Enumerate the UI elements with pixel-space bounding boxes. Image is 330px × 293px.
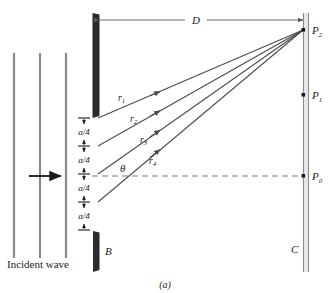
slit-division-label-1: a/4 (78, 127, 90, 137)
viewing-screen-c (304, 13, 309, 272)
figure-caption: (a) (159, 279, 171, 291)
point-marker-p0 (302, 174, 306, 178)
point-marker-p2 (302, 28, 306, 32)
point-marker-p1 (302, 93, 306, 97)
screen-body (304, 13, 309, 272)
barrier-lower-segment (93, 231, 100, 272)
screen-label-c: C (291, 243, 299, 255)
incident-wave-label: Incident wave (7, 258, 69, 270)
barrier-label-b: B (105, 245, 112, 257)
slit-division-label-2: a/4 (78, 155, 90, 165)
distance-label-d: D (191, 14, 200, 26)
barrier-upper-segment (93, 13, 100, 118)
slit-division-label-4: a/4 (78, 211, 90, 221)
diffraction-figure: a/4 a/4 a/4 a/4 D (0, 0, 330, 293)
slit-division-label-3: a/4 (78, 183, 90, 193)
figure-background (0, 0, 330, 293)
angle-label-theta: θ (120, 162, 126, 174)
